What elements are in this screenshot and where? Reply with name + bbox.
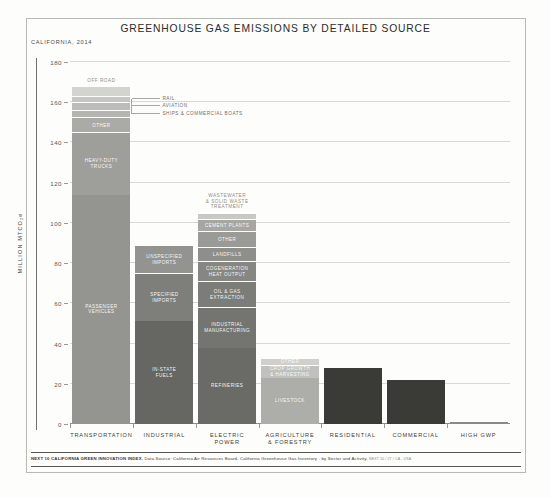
bar-segment[interactable]: OTHER [261, 358, 319, 365]
callout-label: RAIL [162, 96, 174, 102]
callout-label: AVIATION [162, 103, 187, 109]
y-tick-label-40: 40 [6, 340, 62, 347]
bar-transportation[interactable]: PASSENGER VEHICLESHEAVY-DUTY TRUCKSOTHER [72, 86, 130, 424]
page-title: GREENHOUSE GAS EMISSIONS BY DETAILED SOU… [0, 23, 551, 34]
y-tick-mark-180 [64, 62, 68, 63]
plot-area: PASSENGER VEHICLESHEAVY-DUTY TRUCKSOTHER… [70, 62, 510, 424]
x-tick-mark [196, 424, 197, 428]
x-axis-label-transportation: TRANSPORTATION [70, 432, 133, 439]
bar-segment[interactable]: REFINERIES [198, 348, 256, 424]
y-tick-label-20: 20 [6, 380, 62, 387]
y-tick-label-100: 100 [6, 219, 62, 226]
y-tick-mark-0 [64, 424, 68, 425]
bar-segment[interactable]: CROP GROWTH & HARVESTING [261, 365, 319, 378]
y-tick-mark-60 [64, 303, 68, 304]
segment-label: LANDFILLS [212, 252, 243, 258]
segment-label: HEAVY-DUTY TRUCKS [84, 158, 119, 169]
bar-segment[interactable]: OTHER [72, 117, 130, 132]
callout-off-road: OFF ROAD [72, 78, 130, 84]
segment-label: COGENERATION HEAT OUTPUT [205, 266, 249, 277]
bar-segment[interactable]: COGENERATION HEAT OUTPUT [198, 261, 256, 281]
y-tick-label-0: 0 [6, 421, 62, 428]
segment-label: OTHER [217, 237, 237, 243]
y-tick-label-80: 80 [6, 260, 62, 267]
gridline-100 [70, 222, 510, 223]
gridline-140 [70, 141, 510, 142]
bar-segment[interactable] [450, 422, 508, 424]
segment-label: OIL & GAS EXTRACTION [209, 289, 245, 300]
x-tick-mark [447, 424, 448, 428]
bar-segment[interactable] [324, 368, 382, 424]
x-axis-label-industrial: INDUSTRIAL [133, 432, 196, 439]
callout-wastewater-solid-waste-treatment: WASTEWATER & SOLID WASTE TREATMENT [194, 193, 260, 210]
bar-segment[interactable]: CEMENT PLANTS [198, 219, 256, 231]
segment-label: CEMENT PLANTS [204, 223, 250, 229]
y-tick-mark-140 [64, 142, 68, 143]
bar-segment[interactable]: UNSPECIFIED IMPORTS [135, 245, 193, 273]
y-tick-label-140: 140 [6, 139, 62, 146]
bar-segment[interactable]: OIL & GAS EXTRACTION [198, 281, 256, 307]
segment-label: IN-STATE FUELS [151, 367, 177, 378]
bar-segment[interactable]: IN-STATE FUELS [135, 321, 193, 424]
segment-label: OTHER [280, 359, 300, 365]
y-tick-label-120: 120 [6, 179, 62, 186]
bar-segment[interactable] [72, 102, 130, 110]
y-tick-mark-80 [64, 263, 68, 264]
y-axis-ticks: 020406080100120140160180 [0, 62, 70, 424]
y-tick-mark-40 [64, 344, 68, 345]
x-tick-mark [70, 424, 71, 428]
gridline-180 [70, 61, 510, 62]
x-axis-label-electric-power: ELECTRIC POWER [196, 432, 259, 446]
bar-segment[interactable] [387, 380, 445, 424]
bar-segment[interactable]: SPECIFIED IMPORTS [135, 273, 193, 321]
chart-subtitle: CALIFORNIA, 2014 [31, 39, 92, 45]
footer-source-text: Data Source: California Air Resources Bo… [144, 456, 367, 461]
bar-segment[interactable]: INDUSTRIAL MANUFACTURING [198, 307, 256, 347]
callout-leader-line [132, 105, 160, 106]
footer-rule-bottom [31, 466, 521, 467]
bar-electric-power[interactable]: REFINERIESINDUSTRIAL MANUFACTURINGOIL & … [198, 213, 256, 424]
footer-source-bold: NEXT 10 CALIFORNIA GREEN INNOVATION INDE… [31, 456, 143, 461]
bar-residential[interactable] [324, 368, 382, 424]
x-tick-mark [259, 424, 260, 428]
chart-page: GREENHOUSE GAS EMISSIONS BY DETAILED SOU… [0, 0, 551, 498]
y-tick-label-160: 160 [6, 99, 62, 106]
footer-source: NEXT 10 CALIFORNIA GREEN INNOVATION INDE… [31, 456, 523, 461]
x-tick-mark [133, 424, 134, 428]
y-tick-label-180: 180 [6, 59, 62, 66]
segment-label: CROP GROWTH & HARVESTING [269, 366, 311, 377]
gridline-160 [70, 101, 510, 102]
footer-source-note: NEXT 10 / 27 / CA - USA [369, 457, 411, 461]
y-tick-mark-20 [64, 384, 68, 385]
footer-rule-top [31, 452, 521, 453]
x-tick-mark [321, 424, 322, 428]
segment-label: SPECIFIED IMPORTS [149, 292, 179, 303]
callout-connector-line [131, 99, 132, 114]
x-axis-label-agriculture-forestry: AGRICULTURE & FORESTRY [259, 432, 322, 446]
bar-segment[interactable] [72, 86, 130, 96]
gridline-120 [70, 182, 510, 183]
segment-label: REFINERIES [210, 383, 244, 389]
bar-segment[interactable]: LANDFILLS [198, 247, 256, 261]
bar-segment[interactable]: HEAVY-DUTY TRUCKS [72, 132, 130, 194]
callout-leader-line [132, 113, 160, 114]
bar-high-gwp[interactable] [450, 422, 508, 424]
bar-industrial[interactable]: IN-STATE FUELSSPECIFIED IMPORTSUNSPECIFI… [135, 245, 193, 424]
x-axis-label-commercial: COMMERCIAL [384, 432, 447, 439]
bar-segment[interactable] [72, 110, 130, 117]
bar-segment[interactable] [198, 213, 256, 219]
x-axis-label-residential: RESIDENTIAL [321, 432, 384, 439]
y-tick-label-60: 60 [6, 300, 62, 307]
bar-segment[interactable]: PASSENGER VEHICLES [72, 195, 130, 424]
callout-leader-line [132, 98, 160, 99]
bar-segment[interactable] [72, 96, 130, 102]
bar-agriculture-forestry[interactable]: LIVESTOCKCROP GROWTH & HARVESTINGOTHER [261, 358, 319, 424]
y-tick-mark-100 [64, 223, 68, 224]
bar-commercial[interactable] [387, 380, 445, 424]
y-tick-mark-120 [64, 183, 68, 184]
x-axis-label-high-gwp: HIGH GWP [447, 432, 510, 439]
segment-label: OTHER [91, 123, 111, 129]
bar-segment[interactable]: OTHER [198, 231, 256, 247]
bar-segment[interactable]: LIVESTOCK [261, 378, 319, 424]
segment-label: UNSPECIFIED IMPORTS [145, 254, 183, 265]
